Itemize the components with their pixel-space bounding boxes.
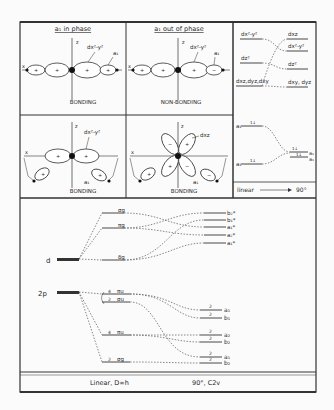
orbital-label: dx²-y² (87, 44, 103, 51)
level-label: a₂ (224, 331, 231, 338)
lobe-sign: + (140, 67, 144, 73)
metal-atom (69, 67, 75, 73)
orbital-label: a₁ (214, 50, 220, 56)
lobe-sign: − (207, 172, 211, 178)
level-label: a₂* (227, 232, 236, 238)
level-label: a₁* (227, 240, 236, 246)
atomic-d-label: d (46, 257, 50, 265)
axis-x-label: x (128, 63, 131, 69)
axis-z-label: z (182, 39, 185, 45)
level-label: a₁ (236, 123, 242, 129)
level-label: b₁* (227, 217, 236, 223)
lobe-sign: + (41, 171, 45, 177)
level-label: dxz (288, 31, 298, 37)
lobe-sign: + (185, 141, 189, 147)
axis-x-label: x (131, 149, 134, 155)
occupancy: 2 (209, 304, 212, 309)
level-label: dxy, dyz (288, 79, 311, 86)
panel-bent-bonding-dx2y2: z x + + + + dx²-y² a₁ BONDING (24, 122, 118, 194)
lobe-sign: + (192, 67, 196, 73)
axis-x-label: x (22, 63, 25, 69)
orbital-label: a₁ (113, 50, 119, 56)
level-label: σg (118, 207, 125, 214)
level-label: πu (117, 288, 124, 294)
mo-correlation-diagram: d 2p σg πg δg 4 πu 2 σu 4 πu 2 σg (38, 207, 236, 387)
level-label: σu (117, 296, 124, 302)
orbital-diagram-figure: a₁ in phase z x + + + + dx²-y² a₁ BONDIN… (0, 0, 334, 410)
axis-z-label: z (76, 39, 79, 45)
lobe-sign: + (106, 67, 110, 73)
level-label: dz² (241, 55, 250, 61)
orbital-label: dx²-y² (190, 44, 206, 51)
lobe-sign: + (161, 67, 165, 73)
lobe-sign: − (212, 67, 216, 73)
occupancy: 4 (108, 330, 111, 335)
level-label: dz² (288, 61, 297, 67)
outer-frame (20, 22, 316, 392)
level-label: a₁ (309, 156, 314, 162)
level-label: πu (117, 329, 124, 335)
ligand-atom (221, 68, 224, 71)
axis-x-label: x (25, 149, 28, 155)
occupancy: 2 (209, 357, 212, 362)
lobe-sign: + (34, 67, 38, 73)
level-label: a₁ (224, 306, 231, 313)
level-label: b₁ (224, 314, 231, 321)
occupancy: 2 (209, 329, 212, 334)
panel-a1-in-phase: a₁ in phase z x + + + + dx²-y² a₁ BONDIN… (22, 25, 122, 105)
panel-bent-bonding-dxz: z x − + + − + − dxz a₁ BONDING (130, 122, 228, 194)
orbital-label: dx²-y² (84, 129, 100, 136)
occupancy: 4 (108, 289, 111, 294)
ligand-atom (131, 68, 134, 71)
bonding-label: BONDING (171, 188, 197, 194)
lobe-sign: + (56, 153, 60, 159)
axis-z-label: z (75, 123, 78, 129)
level-label: dx²-y² (288, 43, 304, 50)
panel-title: a₁ out of phase (154, 25, 203, 33)
occupancy: 2 (108, 357, 111, 362)
electron-count: 1↓ (296, 152, 302, 157)
linear-label: linear (237, 186, 255, 193)
electron-count: 1↓ (292, 146, 298, 151)
lobe-sign: + (85, 67, 89, 73)
bonding-label: BONDING (70, 99, 96, 105)
orbital-label: a₁ (193, 179, 199, 185)
lobe-sign: + (98, 172, 102, 178)
occupancy: 2 (209, 336, 212, 341)
linear-footer-label: Linear, D∞h (90, 379, 129, 387)
angle-label: 90° (296, 186, 307, 193)
electron-count: 1↓ (250, 158, 256, 163)
bonding-label: BONDING (70, 188, 96, 194)
bent-footer-label: 90°, C2v (192, 379, 220, 387)
occupancy: 2 (108, 297, 111, 302)
lobe-sign: + (55, 67, 59, 73)
level-label: δg (118, 254, 125, 261)
orbital-label: a₁ (84, 179, 90, 185)
lobe-sign: + (147, 171, 151, 177)
level-label: b₂ (224, 359, 231, 366)
metal-atom (175, 67, 181, 73)
lobe-sign: − (168, 141, 172, 147)
lobe-sign: + (84, 153, 88, 159)
level-label: dx²-y² (241, 31, 257, 38)
ligand-atom (25, 68, 28, 71)
bonding-label: NON-BONDING (161, 99, 202, 105)
orbital-label: dxz (200, 132, 210, 138)
axis-z-label: z (181, 123, 184, 129)
level-label: σg (117, 356, 124, 363)
level-label: πg (118, 222, 125, 229)
ligand-atom (115, 68, 118, 71)
atomic-2p-label: 2p (38, 290, 47, 298)
electron-count: 1↓ (250, 120, 256, 125)
level-label: a₁* (227, 224, 236, 230)
panel-d-splitting: dx²-y² dz² dxz,dyz,dxy dxz dx²-y² dz² dx… (236, 31, 311, 87)
occupancy: 2 (209, 312, 212, 317)
lobe-sign: − (185, 163, 189, 169)
occupancy: 2 (209, 351, 212, 356)
level-label: a₁ (236, 161, 242, 167)
panel-a1-out-of-phase: a₁ out of phase z x + + + − dx²-y² a₁ NO… (128, 25, 230, 105)
lobe-sign: + (168, 163, 172, 169)
level-label: b₂ (224, 338, 231, 345)
panel-title: a₁ in phase (55, 25, 91, 33)
level-label: b₂* (227, 210, 236, 216)
